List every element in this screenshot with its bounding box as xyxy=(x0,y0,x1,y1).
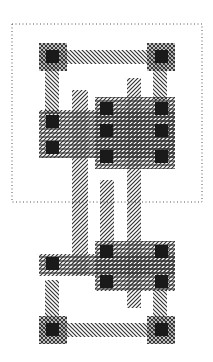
contact-square xyxy=(155,150,168,163)
contact-square xyxy=(100,150,113,163)
contact-square xyxy=(100,102,113,115)
poly-gate xyxy=(100,180,114,245)
contact-square xyxy=(46,115,59,128)
contact-square xyxy=(155,124,168,137)
contact-square xyxy=(155,50,168,63)
vlsi-layout-canvas xyxy=(0,0,213,362)
poly-gate xyxy=(127,78,141,308)
contact-square xyxy=(46,50,59,63)
metal-wire xyxy=(45,64,59,114)
poly-gate xyxy=(72,90,88,275)
contact-square xyxy=(46,323,59,336)
contact-square xyxy=(100,275,113,288)
contact-square xyxy=(100,124,113,137)
contact-square xyxy=(155,245,168,258)
contact-square xyxy=(155,275,168,288)
contact-square xyxy=(155,102,168,115)
contact-square xyxy=(46,257,59,270)
contact-square xyxy=(100,245,113,258)
contact-square xyxy=(155,323,168,336)
contact-square xyxy=(46,141,59,154)
